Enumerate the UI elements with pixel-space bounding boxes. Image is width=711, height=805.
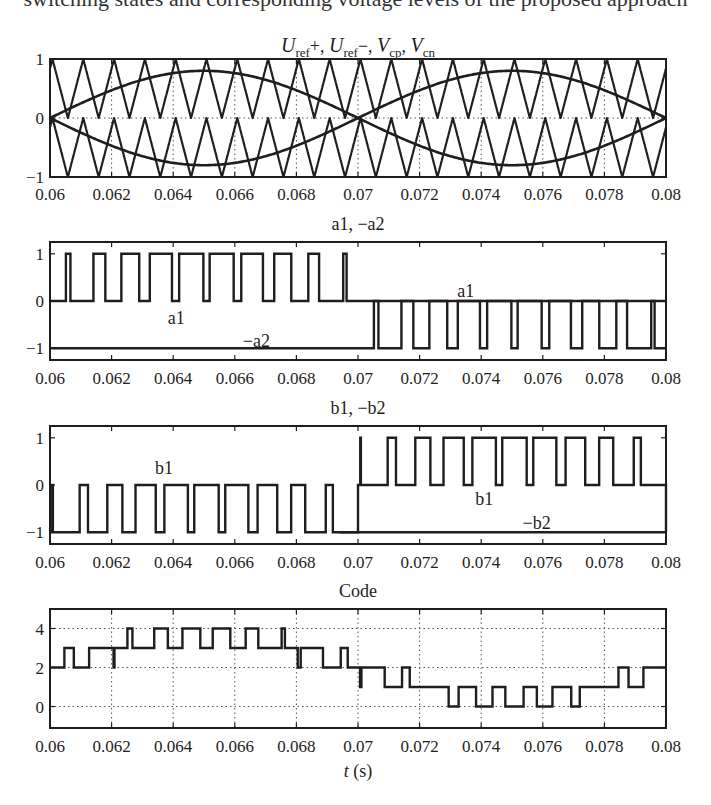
x-tick-label: 0.07	[343, 737, 373, 756]
series-annotation: −a2	[243, 331, 270, 351]
series-annotation: a1	[457, 281, 474, 301]
x-tick-label: 0.076	[524, 553, 562, 572]
x-tick-label: 0.064	[154, 369, 193, 388]
y-tick-label: 0	[36, 476, 45, 495]
y-tick-label: −1	[26, 339, 44, 358]
x-tick-label: 0.072	[400, 369, 438, 388]
y-tick-label: 1	[36, 50, 45, 69]
x-tick-label: 0.08	[651, 553, 681, 572]
x-tick-label: 0.062	[92, 553, 130, 572]
panel-title: a1, −a2	[331, 214, 384, 234]
x-tick-label: 0.078	[585, 737, 623, 756]
x-tick-label: 0.062	[92, 185, 130, 204]
x-tick-label: 0.068	[277, 369, 315, 388]
x-tick-label: 0.08	[651, 737, 681, 756]
x-tick-label: 0.074	[462, 737, 501, 756]
x-tick-label: 0.08	[651, 185, 681, 204]
panel-a1-a2: a1, −a20.060.0620.0640.0660.0680.070.072…	[26, 214, 681, 388]
x-tick-label: 0.066	[216, 185, 254, 204]
x-tick-label: 0.076	[524, 737, 562, 756]
x-tick-label: 0.064	[154, 185, 193, 204]
x-tick-label: 0.074	[462, 185, 501, 204]
x-tick-label: 0.078	[585, 369, 623, 388]
x-tick-label: 0.07	[343, 185, 373, 204]
x-tick-label: 0.076	[524, 369, 562, 388]
x-tick-label: 0.068	[277, 737, 315, 756]
y-tick-label: 4	[36, 620, 45, 639]
x-tick-label: 0.072	[400, 185, 438, 204]
x-tick-label: 0.06	[35, 185, 65, 204]
x-tick-label: 0.068	[277, 553, 315, 572]
x-axis-label: t (s)	[344, 761, 373, 782]
series-a1	[50, 254, 666, 301]
x-tick-label: 0.07	[343, 553, 373, 572]
y-tick-label: 0	[36, 698, 45, 717]
x-tick-label: 0.08	[651, 369, 681, 388]
x-tick-label: 0.062	[92, 737, 130, 756]
y-tick-label: 2	[36, 659, 45, 678]
x-tick-label: 0.066	[216, 737, 254, 756]
y-tick-label: 1	[36, 245, 45, 264]
series-annotation: −b2	[523, 513, 551, 533]
x-tick-label: 0.064	[154, 553, 193, 572]
y-tick-label: −1	[26, 168, 44, 187]
x-tick-label: 0.066	[216, 553, 254, 572]
series-minus-a2	[50, 301, 666, 348]
series-annotation: a1	[168, 308, 185, 328]
panel-reference-carriers: Uref+, Uref−, Vcp, Vcn0.060.0620.0640.06…	[26, 34, 681, 204]
x-tick-label: 0.074	[462, 553, 501, 572]
panel-title: Uref+, Uref−, Vcp, Vcn	[281, 34, 436, 60]
series-annotation: b1	[475, 489, 493, 509]
y-tick-label: 0	[36, 109, 45, 128]
x-tick-label: 0.072	[400, 553, 438, 572]
x-tick-label: 0.068	[277, 185, 315, 204]
x-tick-label: 0.072	[400, 737, 438, 756]
panel-title: b1, −b2	[330, 398, 385, 418]
panel-code: Code0.060.0620.0640.0660.0680.070.0720.0…	[35, 581, 681, 782]
series-b1	[50, 438, 666, 532]
panel-b1-b2: b1, −b20.060.0620.0640.0660.0680.070.072…	[26, 398, 681, 572]
x-tick-label: 0.076	[524, 185, 562, 204]
x-tick-label: 0.066	[216, 369, 254, 388]
x-tick-label: 0.064	[154, 737, 193, 756]
x-tick-label: 0.078	[585, 553, 623, 572]
x-tick-label: 0.062	[92, 369, 130, 388]
y-tick-label: 1	[36, 429, 45, 448]
x-tick-label: 0.074	[462, 369, 501, 388]
x-tick-label: 0.06	[35, 737, 65, 756]
y-tick-label: −1	[26, 523, 44, 542]
panel-title: Code	[339, 581, 377, 601]
x-tick-label: 0.06	[35, 369, 65, 388]
x-tick-label: 0.06	[35, 553, 65, 572]
x-tick-label: 0.07	[343, 369, 373, 388]
y-tick-label: 0	[36, 292, 45, 311]
figure: Uref+, Uref−, Vcp, Vcn0.060.0620.0640.06…	[0, 0, 711, 805]
x-tick-label: 0.078	[585, 185, 623, 204]
series-annotation: b1	[155, 458, 173, 478]
